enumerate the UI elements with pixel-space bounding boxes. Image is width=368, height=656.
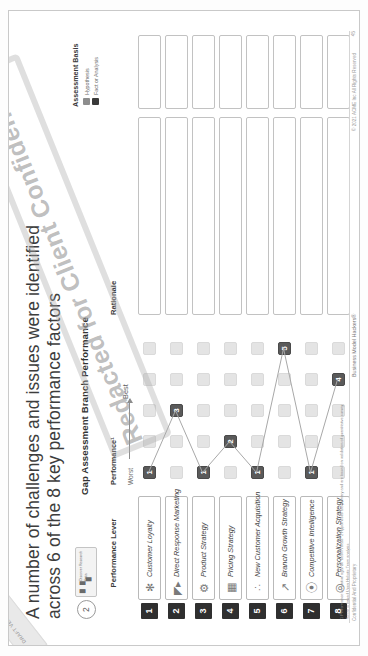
score-cell[interactable] — [251, 404, 264, 417]
score-cell-selected[interactable]: 5 — [278, 342, 291, 355]
score-cell[interactable] — [251, 342, 264, 355]
performance-scale: 1 — [300, 323, 323, 485]
assessment-basis-cell[interactable] — [327, 35, 350, 109]
assessment-basis-cell[interactable] — [246, 35, 269, 109]
legend-label-hypothesis: Hypothesis — [84, 68, 90, 95]
score-cell[interactable] — [305, 342, 318, 355]
score-cell[interactable] — [197, 342, 210, 355]
performance-scale: 1 — [192, 323, 215, 485]
score-cell-selected[interactable]: 3 — [170, 404, 183, 417]
score-cell-selected[interactable]: 1 — [143, 466, 156, 479]
rationale-cell[interactable] — [219, 117, 242, 315]
footer-divider — [349, 31, 350, 623]
lever-label: Pricing Strategy — [226, 525, 235, 577]
table-row[interactable]: 5∴New Customer Acquisition1 — [245, 10, 270, 645]
assessment-basis-cell[interactable] — [192, 35, 215, 109]
footer-brand: Business Model Hackers® — [351, 314, 357, 377]
megaphone-icon: ◤▸ — [170, 580, 185, 595]
performance-lever-rows: 1✻Customer Loyalty12◤▸Direct Response Ma… — [137, 10, 353, 645]
lever-card[interactable]: ⦿Competitive Intelligence — [300, 496, 323, 600]
lever-label: Competitive Intelligence — [307, 500, 316, 577]
score-cell-selected[interactable]: 1 — [251, 466, 264, 479]
score-cell[interactable] — [224, 404, 237, 417]
loyalty-badge-icon: ✻ — [143, 580, 158, 595]
slide-rotation-wrapper: DRAFT VERSION A number of challenges and… — [8, 10, 360, 646]
lever-label: New Customer Acquisition — [253, 492, 262, 577]
research-data-chip: ▘▚ Discover Research Data — [75, 547, 97, 597]
lever-card[interactable]: ↗Branch Growth Strategy — [273, 496, 296, 600]
score-cell-selected[interactable]: 1 — [305, 466, 318, 479]
people-group-icon: ∴ — [251, 580, 266, 595]
assessment-basis-cell[interactable] — [165, 35, 188, 109]
score-cell[interactable] — [278, 435, 291, 448]
score-cell[interactable] — [305, 404, 318, 417]
score-cell[interactable] — [197, 435, 210, 448]
rationale-cell[interactable] — [138, 117, 161, 315]
rationale-cell[interactable] — [192, 117, 215, 315]
score-cell[interactable] — [197, 404, 210, 417]
rationale-cell[interactable] — [246, 117, 269, 315]
score-cell[interactable] — [224, 373, 237, 386]
presentation-slide: DRAFT VERSION A number of challenges and… — [8, 10, 360, 646]
score-cell[interactable] — [278, 466, 291, 479]
table-row[interactable]: 4▦Pricing Strategy2 — [218, 10, 243, 645]
assessment-basis-cell[interactable] — [273, 35, 296, 109]
product-box-icon: ⚙ — [197, 580, 212, 595]
table-row[interactable]: 7⦿Competitive Intelligence1 — [299, 10, 324, 645]
score-cell[interactable] — [278, 373, 291, 386]
score-cell[interactable] — [305, 435, 318, 448]
rationale-cell[interactable] — [300, 117, 323, 315]
rationale-cell[interactable] — [165, 117, 188, 315]
performance-scale: 1 — [246, 323, 269, 485]
score-cell[interactable] — [278, 404, 291, 417]
rationale-cell[interactable] — [273, 117, 296, 315]
score-cell[interactable] — [251, 373, 264, 386]
page-number: 45 — [351, 31, 356, 36]
score-cell[interactable] — [170, 435, 183, 448]
footer-confidentiality: Confidential And Proprietary — [352, 564, 357, 621]
assessment-basis-legend: Hypothesis Fact or Analysis — [83, 57, 101, 105]
row-rank-badge: 2 — [168, 603, 185, 619]
lever-card[interactable]: ∴New Customer Acquisition — [246, 496, 269, 600]
lever-card[interactable]: ✻Customer Loyalty — [138, 496, 161, 600]
score-cell[interactable] — [224, 466, 237, 479]
lever-label: Branch Growth Strategy — [280, 499, 289, 577]
table-row[interactable]: 3⚙Product Strategy1 — [191, 10, 216, 645]
lever-card[interactable]: ▦Pricing Strategy — [219, 496, 242, 600]
lever-card[interactable]: ⚙Product Strategy — [192, 496, 215, 600]
table-row[interactable]: 2◤▸Direct Response Marketing3 — [164, 10, 189, 645]
score-cell[interactable] — [143, 342, 156, 355]
table-row[interactable]: 6↗Branch Growth Strategy5 — [272, 10, 297, 645]
assessment-basis-cell[interactable] — [138, 35, 161, 109]
assessment-basis-cell[interactable] — [300, 35, 323, 109]
table-row[interactable]: 1✻Customer Loyalty1 — [137, 10, 162, 645]
performance-scale: 5 — [273, 323, 296, 485]
score-cell-selected[interactable]: 1 — [197, 466, 210, 479]
step-number-bubble: 2 — [77, 600, 96, 619]
assessment-basis-cell[interactable] — [219, 35, 242, 109]
row-rank-badge: 7 — [303, 603, 320, 619]
score-cell-selected[interactable]: 2 — [224, 435, 237, 448]
axis-label-worst: Worst — [127, 468, 134, 485]
score-cell[interactable] — [251, 435, 264, 448]
row-rank-badge: 4 — [222, 603, 239, 619]
row-rank-badge: 6 — [276, 603, 293, 619]
lever-card[interactable]: ◤▸Direct Response Marketing — [165, 496, 188, 600]
score-cell[interactable] — [170, 342, 183, 355]
legend-swatch-hypothesis — [83, 98, 90, 105]
score-cell[interactable] — [170, 373, 183, 386]
lever-label: Direct Response Marketing — [172, 489, 181, 577]
score-cell[interactable] — [224, 342, 237, 355]
performance-scale: 2 — [219, 323, 242, 485]
score-cell[interactable] — [197, 373, 210, 386]
footer-copyright: © 2021 ACME Inc All Rights Reserved — [352, 53, 357, 131]
legend-item-fact-or-analysis: Fact or Analysis — [92, 57, 99, 105]
performance-scale: 3 — [165, 323, 188, 485]
legend-swatch-fact-or-analysis — [92, 98, 99, 105]
price-tag-icon: ▦ — [224, 580, 239, 595]
score-cell[interactable] — [170, 466, 183, 479]
binoculars-icon: ⦿ — [305, 580, 320, 595]
score-cell[interactable] — [305, 373, 318, 386]
research-data-chip-label: Discover Research Data — [79, 550, 89, 581]
column-header-assessment-basis: Assessment Basis — [71, 43, 80, 107]
